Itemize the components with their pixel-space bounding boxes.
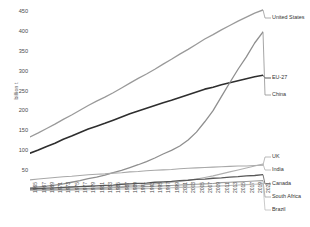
legend-leader-line (263, 10, 271, 18)
cumulative-emissions-line-chart: billion t 50100150200250300350400450 196… (0, 0, 310, 227)
legend-leader-line (263, 157, 271, 165)
legend-leader-lines (0, 0, 310, 227)
legend-leader-line (263, 175, 271, 184)
legend-leader-line (263, 164, 271, 170)
legend-leader-line (263, 32, 271, 95)
